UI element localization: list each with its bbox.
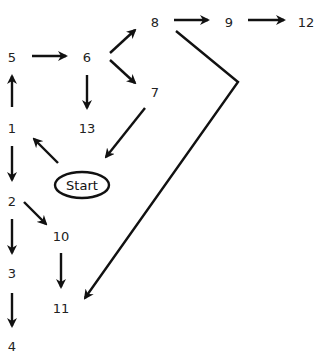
node-7: 7: [151, 85, 159, 100]
edge-2-to-10: [24, 202, 46, 224]
edge-8-to-11: [85, 31, 238, 298]
edge-7-to-start: [106, 108, 145, 157]
node-4: 4: [8, 339, 16, 354]
start-node-label: Start: [66, 178, 98, 193]
node-8: 8: [151, 15, 159, 30]
node-2: 2: [8, 194, 16, 209]
node-10: 10: [53, 229, 70, 244]
edge-6-to-7: [110, 60, 135, 83]
node-3: 3: [8, 266, 16, 281]
node-6: 6: [83, 50, 91, 65]
edge-start-to-1: [34, 139, 58, 163]
node-11: 11: [53, 301, 70, 316]
node-9: 9: [225, 15, 233, 30]
node-1: 1: [8, 121, 16, 136]
diagram-canvas: [0, 0, 324, 357]
node-13: 13: [79, 121, 96, 136]
node-5: 5: [8, 50, 16, 65]
node-12: 12: [298, 15, 315, 30]
edge-6-to-8: [110, 30, 135, 53]
